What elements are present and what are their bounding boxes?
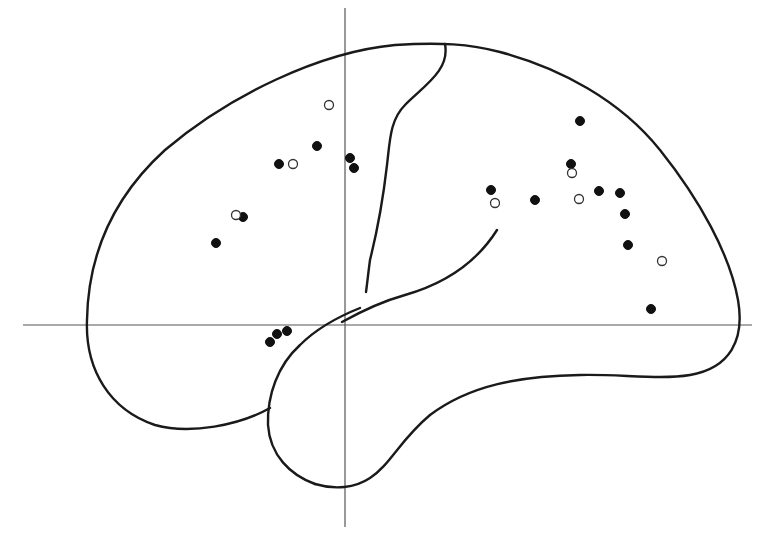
filled-marker xyxy=(567,160,576,169)
filled-marker xyxy=(616,189,625,198)
filled-marker xyxy=(487,186,496,195)
cerebrum-outline xyxy=(87,44,740,488)
filled-marker xyxy=(273,330,282,339)
brain-diagram xyxy=(0,0,761,540)
open-marker xyxy=(575,195,584,204)
filled-marker xyxy=(275,160,284,169)
filled-marker xyxy=(595,187,604,196)
filled-marker xyxy=(621,210,630,219)
filled-marker-group xyxy=(212,117,656,347)
lateral-fissure xyxy=(342,230,497,322)
central-sulcus xyxy=(366,44,446,292)
filled-marker xyxy=(212,239,221,248)
filled-marker xyxy=(647,305,656,314)
open-marker xyxy=(325,101,334,110)
open-marker xyxy=(658,257,667,266)
open-marker-group xyxy=(232,101,667,266)
filled-marker xyxy=(283,327,292,336)
filled-marker xyxy=(350,164,359,173)
open-marker xyxy=(491,199,500,208)
filled-marker xyxy=(313,142,322,151)
filled-marker xyxy=(346,154,355,163)
filled-marker xyxy=(576,117,585,126)
open-marker xyxy=(232,211,241,220)
filled-marker xyxy=(266,338,275,347)
filled-marker xyxy=(531,196,540,205)
open-marker xyxy=(289,160,298,169)
diagram-stage: lateral brain outline with coordinate ax… xyxy=(0,0,761,540)
filled-marker xyxy=(624,241,633,250)
open-marker xyxy=(568,169,577,178)
